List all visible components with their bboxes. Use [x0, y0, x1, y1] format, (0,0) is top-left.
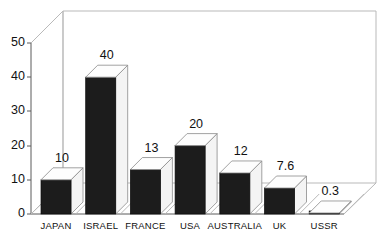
bar-value-label: 12 — [234, 144, 248, 158]
y-tick-label: 0 — [18, 206, 25, 220]
bar-front-face — [220, 173, 250, 214]
category-label: USSR — [311, 220, 338, 231]
y-tick-label: 30 — [11, 103, 25, 117]
y-tick-30: 30 — [11, 103, 31, 117]
y-tick-label: 40 — [11, 69, 25, 83]
bar-value-label: 0.3 — [322, 184, 339, 198]
bar-value-label: 20 — [189, 117, 203, 131]
bar-group — [175, 134, 217, 214]
bar-front-face — [265, 188, 295, 214]
y-tick-label: 10 — [11, 172, 25, 186]
y-tick-50: 50 — [11, 35, 31, 49]
bar-group — [309, 201, 351, 214]
bar-side-face — [116, 65, 128, 214]
bar-front-face — [175, 146, 205, 214]
bar-side-face — [205, 134, 217, 214]
bar-group — [220, 161, 262, 214]
bar-group — [265, 176, 307, 214]
category-labels-layer: JAPANISRAELFRANCEUSAAUSTRALIAUKUSSR — [41, 220, 338, 231]
y-tick-10: 10 — [11, 172, 31, 186]
bar-group — [130, 158, 172, 214]
chart-container: 0 10 20 30 40 50 — [0, 0, 388, 246]
bar-top-face — [309, 201, 351, 213]
category-label: USA — [180, 220, 201, 231]
bar-chart-3d: 0 10 20 30 40 50 — [0, 0, 388, 246]
category-label: JAPAN — [41, 220, 72, 231]
bar-value-label: 13 — [144, 141, 158, 155]
bar-front-face — [41, 180, 71, 214]
category-label: AUSTRALIA — [208, 220, 263, 231]
y-tick-label: 50 — [11, 35, 25, 49]
bars-layer — [31, 65, 364, 214]
bar-value-label: 10 — [55, 151, 69, 165]
category-label: ISRAEL — [83, 220, 118, 231]
bar-value-label: 7.6 — [277, 159, 294, 173]
bar-value-label: 40 — [100, 48, 114, 62]
category-label: FRANCE — [125, 220, 165, 231]
y-tick-40: 40 — [11, 69, 31, 83]
y-axis: 0 10 20 30 40 50 — [11, 35, 31, 220]
bar-front-face — [86, 77, 116, 214]
bar-group — [86, 65, 128, 214]
y-tick-20: 20 — [11, 138, 31, 152]
bar-group — [41, 168, 83, 214]
y-tick-label: 20 — [11, 138, 25, 152]
y-tick-0: 0 — [18, 206, 31, 220]
frame-diagonal-top-left — [31, 11, 63, 43]
bar-front-face — [130, 170, 160, 214]
category-label: UK — [273, 220, 287, 231]
